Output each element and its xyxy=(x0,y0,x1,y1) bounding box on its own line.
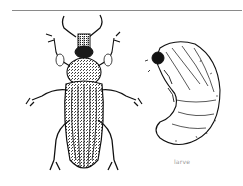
beetle-drawing xyxy=(26,15,142,170)
larva-caption: larve xyxy=(174,158,190,165)
illustration xyxy=(0,0,243,186)
larva-drawing xyxy=(145,42,220,145)
